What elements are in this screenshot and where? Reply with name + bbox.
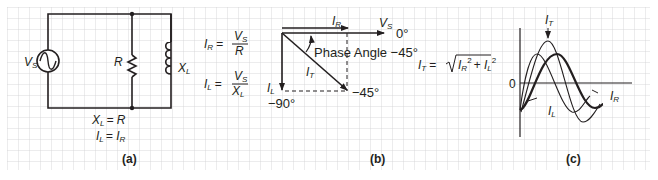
diagram-canvas: VS R XL XL= R IL= IR (a) IR= VS R IL= VS… <box>0 0 658 180</box>
zero-degree-label: 0° <box>396 26 408 41</box>
equation-xl-equals-r: XL= R <box>91 113 126 128</box>
caption-a: (a) <box>122 152 137 166</box>
svg-text:R: R <box>235 44 244 58</box>
total-current-formula: IT= IR2+ IL2 <box>418 55 497 73</box>
caption-c: (c) <box>566 152 581 166</box>
minus-45-label: −45° <box>352 85 379 100</box>
caption-b: (b) <box>370 152 385 166</box>
zero-axis-label: 0 <box>509 77 516 91</box>
minus-90-label: −90° <box>268 96 295 111</box>
resistor-label: R <box>114 55 123 69</box>
graph-paper-grid <box>7 7 650 170</box>
phase-angle-label: Phase Angle −45° <box>314 45 418 60</box>
